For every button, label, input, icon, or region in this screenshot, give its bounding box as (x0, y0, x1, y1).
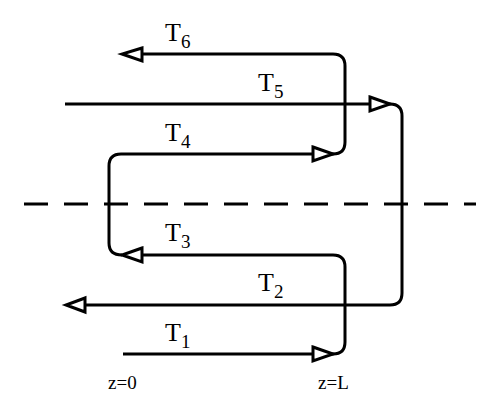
arrow-right-icon (313, 347, 333, 361)
label-t4: T4 (165, 120, 190, 151)
label-t2: T2 (258, 270, 283, 301)
arrow-right-icon (313, 147, 333, 161)
label-t5: T5 (258, 70, 283, 101)
label-t6: T6 (165, 20, 190, 51)
arrow-left-icon (66, 298, 85, 312)
arrow-right-icon (370, 97, 390, 111)
label-z0: z=0 (108, 372, 137, 394)
path-t3-t4 (109, 54, 345, 255)
flow-diagram: T6 T5 T4 T3 T2 T1 z=0 z=L (0, 0, 496, 407)
arrow-left-icon (122, 248, 142, 262)
label-t3: T3 (165, 220, 190, 251)
flow-paths (0, 0, 496, 407)
label-zL: z=L (318, 372, 349, 394)
label-t1: T1 (165, 320, 190, 351)
arrow-left-icon (122, 48, 142, 61)
